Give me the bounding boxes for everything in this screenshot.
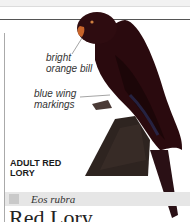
annotation-wing-line2: markings bbox=[34, 99, 76, 110]
caption-line1: ADULT RED bbox=[10, 158, 80, 168]
annotation-bill-line1: bright bbox=[46, 52, 92, 63]
annotation-wing-line1: blue wing bbox=[34, 88, 76, 99]
annotation-bill: bright orange bill bbox=[46, 52, 92, 74]
caption-line2: LORY bbox=[10, 168, 80, 178]
annotation-bill-line2: orange bill bbox=[46, 63, 92, 74]
annotation-wing: blue wing markings bbox=[34, 88, 76, 110]
photo-caption: ADULT RED LORY bbox=[10, 158, 80, 178]
species-icon bbox=[9, 194, 19, 204]
red-lory-photo bbox=[0, 0, 190, 222]
page-title: Red Lory bbox=[9, 206, 93, 222]
scientific-name: Eos rubra bbox=[31, 192, 75, 206]
